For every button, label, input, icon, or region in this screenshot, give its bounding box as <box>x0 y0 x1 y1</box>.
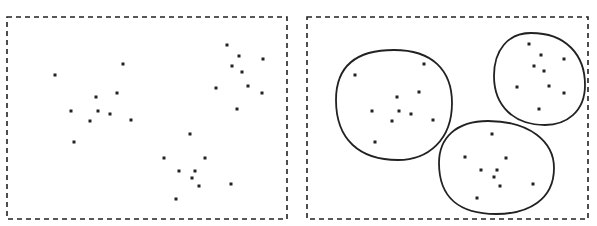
cluster-1-outline <box>336 50 452 160</box>
data-point <box>178 170 181 173</box>
data-point <box>491 133 494 136</box>
data-point <box>54 74 57 77</box>
data-point <box>499 185 502 188</box>
data-point <box>423 63 426 66</box>
data-point <box>548 85 551 88</box>
data-point <box>215 87 218 90</box>
data-point <box>540 54 543 57</box>
data-point <box>226 44 229 47</box>
data-point <box>563 58 566 61</box>
data-point <box>241 71 244 74</box>
data-point <box>391 120 394 123</box>
data-point <box>371 110 374 113</box>
data-point <box>191 177 194 180</box>
cluster-2-outline <box>494 33 585 125</box>
data-point <box>194 170 197 173</box>
data-point <box>198 185 201 188</box>
clustered-panel <box>307 17 588 219</box>
data-point <box>231 65 234 68</box>
data-point <box>122 63 125 66</box>
data-point <box>538 108 541 111</box>
data-point <box>204 157 207 160</box>
data-point <box>189 133 192 136</box>
data-point <box>533 65 536 68</box>
data-point <box>398 110 401 113</box>
data-point <box>247 85 250 88</box>
data-point <box>496 169 499 172</box>
data-point <box>163 157 166 160</box>
data-point <box>109 113 112 116</box>
data-point <box>89 120 92 123</box>
data-point <box>354 74 357 77</box>
data-point <box>73 141 76 144</box>
data-point <box>464 156 467 159</box>
data-point <box>432 119 435 122</box>
data-point <box>532 183 535 186</box>
data-point <box>493 176 496 179</box>
data-point <box>95 96 98 99</box>
data-point <box>563 92 566 95</box>
data-point <box>396 96 399 99</box>
cluster-3-outline <box>439 121 554 214</box>
data-point <box>374 141 377 144</box>
data-point <box>230 183 233 186</box>
data-point <box>116 92 119 95</box>
data-point <box>70 110 73 113</box>
unclustered-panel <box>7 17 287 219</box>
data-point <box>238 55 241 58</box>
data-point <box>97 110 100 113</box>
data-point <box>236 108 239 111</box>
dashed-frame <box>307 17 588 219</box>
data-point <box>175 198 178 201</box>
data-point <box>516 86 519 89</box>
data-point <box>410 113 413 116</box>
data-point <box>418 91 421 94</box>
data-point <box>505 157 508 160</box>
clustering-diagram <box>0 0 597 226</box>
data-point <box>261 92 264 95</box>
data-point <box>262 58 265 61</box>
data-point <box>528 43 531 46</box>
data-point <box>130 119 133 122</box>
data-point <box>543 70 546 73</box>
dashed-frame <box>7 17 287 219</box>
data-point <box>476 197 479 200</box>
data-point <box>480 169 483 172</box>
